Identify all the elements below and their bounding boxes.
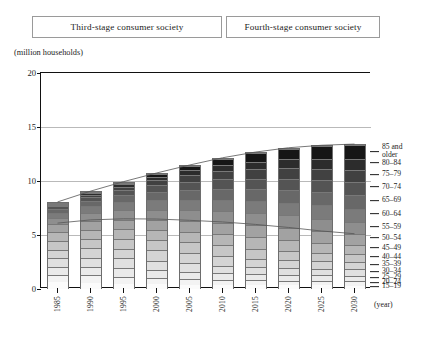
bar-segment [345,234,365,245]
bar-segment [147,284,167,289]
bar-segment [279,268,299,275]
bar-segment [180,285,200,289]
bar-segment [345,145,365,159]
x-axis-tick-label: 2020 [284,296,293,312]
bar-segment [48,241,68,250]
bar-segment [147,270,167,278]
legend-item[interactable]: 45–49 [370,244,401,252]
bar-segment [114,249,134,259]
stacked-bar[interactable] [344,144,366,289]
bar-segment [213,245,233,256]
y-axis-tick-label: 0 [32,284,36,294]
y-axis-unit-caption: (million households) [14,48,83,57]
consumer-society-stage-banner: Third-stage consumer society Fourth-stag… [32,16,380,38]
bar-segment [81,213,101,221]
x-axis-tick-label: 1995 [119,296,128,312]
bar-segment [147,210,167,220]
bar-segment [312,285,332,289]
bar-segment [48,282,68,289]
y-axis-tick-label: 10 [27,176,36,186]
bar-segment [246,201,266,213]
x-axis-tick-label: 2005 [185,296,194,312]
legend-item[interactable]: 80–84 [370,159,401,167]
legend-leader-line [370,186,379,187]
legend-item-label: 55–59 [382,223,401,231]
stacked-bar[interactable] [278,148,300,289]
bar-segment [114,258,134,267]
bar-segment [81,230,101,239]
bar-segment [246,285,266,289]
legend-item[interactable]: 15–19 [370,282,401,290]
x-axis-tick [354,288,355,293]
bar-segment [246,259,266,268]
bar-segment [345,209,365,223]
legend-item[interactable]: 65–69 [370,196,401,204]
bar-segment [114,229,134,239]
bar-segment [312,253,332,262]
bar-segment [180,253,200,263]
stacked-bar[interactable] [245,152,267,289]
stage-label-third: Third-stage consumer society [32,16,222,38]
stacked-bar[interactable] [311,145,333,289]
bar-segment [180,221,200,232]
x-axis-tick [123,288,124,293]
legend-item[interactable]: 70–74 [370,183,401,191]
bar-segment [345,254,365,262]
bar-segment [246,169,266,178]
stacked-bar[interactable] [212,158,234,289]
bar-segment [279,260,299,268]
legend-leader-line [370,247,379,248]
bar-segment [180,210,200,221]
stacked-bar[interactable] [80,191,102,289]
bar-segment [114,195,134,202]
legend-item[interactable]: 50–54 [370,234,401,242]
bar-segment [345,195,365,209]
bar-segment [312,159,332,169]
bar-segment [279,168,299,179]
legend-item[interactable]: 75–79 [370,171,401,179]
bar-segment [180,242,200,253]
bar-segment [279,285,299,289]
bar-segment [114,268,134,277]
bar-segment [246,179,266,190]
legend-item[interactable]: 85 andolder [370,143,402,159]
legend-item[interactable]: 55–59 [370,223,401,231]
bar-segment [147,250,167,260]
x-axis-tick-label: 1990 [86,296,95,312]
bar-segment [279,251,299,260]
bar-segment [246,225,266,237]
stacked-bar[interactable] [113,182,135,289]
x-axis-tick [189,288,190,293]
bar-segment [81,221,101,230]
bar-segment [213,211,233,222]
bar-segment [180,263,200,272]
legend-item[interactable]: 60–64 [370,210,401,218]
stacked-bar[interactable] [47,202,69,289]
bar-segment [246,249,266,259]
bar-segment [213,223,233,234]
bar-segment [279,228,299,240]
stacked-bar[interactable] [179,165,201,289]
age-group-legend: 85 andolder80–8475–7970–7465–6960–6455–5… [370,72,440,289]
bar-segment [180,190,200,200]
bar-segment [279,215,299,228]
bar-segment [147,240,167,250]
bar-segment [279,190,299,202]
bar-segment [180,182,200,190]
bar-segment [147,200,167,209]
bar-segment [114,277,134,284]
bar-segment [48,258,68,266]
bar-segment [345,245,365,254]
bar-segment [246,237,266,249]
bar-segment [180,272,200,279]
bar-segment [81,248,101,257]
legend-leader-line [370,213,379,214]
stacked-bar[interactable] [146,173,168,289]
stacked-bars-layer [41,73,371,289]
x-axis-tick [156,288,157,293]
bar-segment [180,232,200,243]
bar-segment [312,169,332,180]
bar-segment [180,175,200,182]
bar-segment [213,266,233,274]
bar-segment [345,222,365,234]
